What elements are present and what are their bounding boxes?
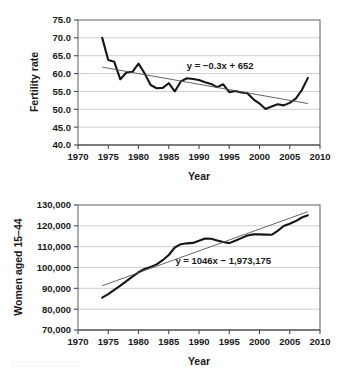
fertility-trendline-equation: y = −0.3x + 652 [187, 60, 254, 71]
x-tick-label: 1995 [219, 336, 241, 347]
x-tick-label: 1980 [128, 151, 149, 162]
women-y-axis-title: Women aged 15–44 [12, 218, 24, 315]
x-tick-label: 2000 [249, 336, 270, 347]
x-tick-label: 1990 [188, 336, 209, 347]
fertility-x-axis-title: Year [188, 170, 210, 182]
y-tick-label: 65.0 [53, 50, 72, 61]
x-tick-label: 2010 [309, 336, 330, 347]
x-tick-label: 2000 [249, 151, 270, 162]
y-tick-label: 70,000 [42, 324, 71, 335]
x-tick-label: 1995 [219, 151, 241, 162]
y-tick-label: 90,000 [42, 283, 71, 294]
y-tick-label: 100,000 [37, 262, 71, 273]
x-tick-label: 1970 [67, 151, 88, 162]
y-tick-label: 120,000 [37, 220, 71, 231]
women-aged-15-44-chart: 70,00080,00090,000100,000110,000120,0001… [0, 185, 344, 373]
x-tick-label: 1980 [128, 336, 149, 347]
y-tick-label: 40.0 [53, 139, 72, 150]
y-tick-label: 70.0 [53, 32, 72, 43]
y-tick-label: 130,000 [37, 199, 71, 210]
fertility-y-axis: 40.045.050.055.060.065.070.075.0 [53, 14, 79, 150]
women-x-axis-title: Year [188, 355, 210, 367]
x-tick-label: 1975 [98, 151, 120, 162]
x-tick-label: 1975 [98, 336, 120, 347]
women-y-axis: 70,00080,00090,000100,000110,000120,0001… [37, 199, 78, 335]
x-tick-label: 1985 [158, 336, 180, 347]
y-tick-label: 45.0 [53, 122, 72, 133]
fertility-y-axis-title: Fertility rate [28, 52, 40, 112]
x-tick-label: 1985 [158, 151, 180, 162]
page-artifact [10, 360, 80, 367]
women-x-axis: 197019751980198519901995200020052010 [67, 330, 330, 347]
y-tick-label: 75.0 [53, 14, 72, 25]
fertility-x-axis: 197019751980198519901995200020052010 [67, 145, 330, 162]
x-tick-label: 1970 [67, 336, 88, 347]
x-tick-label: 1990 [188, 151, 209, 162]
y-tick-label: 110,000 [37, 241, 71, 252]
women-trendline-equation: y = 1046x − 1,973,175 [175, 255, 271, 266]
women-plot-area [78, 205, 320, 330]
women-chart-svg: 70,00080,00090,000100,000110,000120,0001… [0, 185, 344, 373]
fertility-chart-svg: 40.045.050.055.060.065.070.075.0 1970197… [0, 0, 344, 188]
fertility-plot-area [78, 20, 320, 145]
y-tick-label: 80,000 [42, 304, 71, 315]
y-tick-label: 50.0 [53, 104, 72, 115]
y-tick-label: 60.0 [53, 68, 72, 79]
fertility-rate-chart: 40.045.050.055.060.065.070.075.0 1970197… [0, 0, 344, 188]
y-tick-label: 55.0 [53, 86, 72, 97]
x-tick-label: 2010 [309, 151, 330, 162]
x-tick-label: 2005 [279, 151, 301, 162]
fertility-plot-background [78, 20, 320, 145]
x-tick-label: 2005 [279, 336, 301, 347]
